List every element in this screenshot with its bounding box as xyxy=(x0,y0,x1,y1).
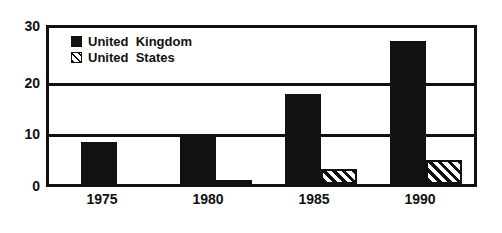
x-tick-label-1985: 1985 xyxy=(274,192,354,206)
legend-swatch-hatch-icon xyxy=(71,52,82,63)
legend-item-united-kingdom: United Kingdom xyxy=(71,34,192,49)
bar-united-kingdom-1985 xyxy=(285,94,321,184)
y-tick-label-0: 0 xyxy=(0,179,40,193)
x-tick-label-1980: 1980 xyxy=(168,192,248,206)
legend-swatch-solid-icon xyxy=(71,36,82,47)
y-tick-label-10: 10 xyxy=(0,127,40,141)
x-tick-label-1990: 1990 xyxy=(380,192,460,206)
bar-united-kingdom-1990 xyxy=(390,41,426,184)
legend: United Kingdom United States xyxy=(71,34,192,66)
bar-chart: 30 20 10 0 United Kingdom xyxy=(0,0,502,233)
bar-united-states-1990 xyxy=(426,160,462,184)
legend-item-united-states: United States xyxy=(71,50,192,65)
bar-united-states-1980 xyxy=(216,180,252,184)
legend-label-united-states: United States xyxy=(88,51,175,64)
bar-group-1985 xyxy=(261,28,367,184)
legend-label-united-kingdom: United Kingdom xyxy=(88,35,192,48)
x-axis: 1975 1980 1985 1990 xyxy=(46,192,477,216)
bar-united-kingdom-1980 xyxy=(180,137,216,184)
bar-united-states-1985 xyxy=(321,169,357,184)
bar-united-kingdom-1975 xyxy=(81,142,117,184)
y-tick-label-20: 20 xyxy=(0,76,40,90)
y-axis: 30 20 10 0 xyxy=(0,0,46,233)
bar-group-1990 xyxy=(367,28,474,184)
x-tick-label-1975: 1975 xyxy=(62,192,142,206)
y-tick-label-30: 30 xyxy=(0,19,40,33)
